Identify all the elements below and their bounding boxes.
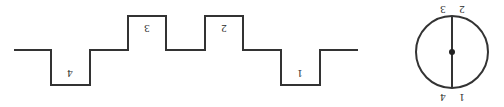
circle-label-3: 3: [440, 4, 446, 16]
wave-label-2: 2: [221, 23, 227, 35]
wave-label-1: 1: [297, 68, 303, 80]
center-point-dot: [449, 49, 455, 55]
circle-label-4: 4: [440, 92, 446, 104]
circle-group: 3 2 4 1: [416, 4, 488, 104]
wave-label-4: 4: [67, 68, 73, 80]
circle-label-1: 1: [459, 92, 465, 104]
waveform-group: 4 3 2 1: [14, 16, 358, 85]
diagram-canvas: 4 3 2 1 3 2 4 1: [0, 0, 504, 107]
circle-label-2: 2: [459, 4, 465, 16]
diagram-svg: 4 3 2 1 3 2 4 1: [0, 0, 504, 107]
square-wave-path: [14, 16, 358, 85]
wave-label-3: 3: [144, 23, 150, 35]
